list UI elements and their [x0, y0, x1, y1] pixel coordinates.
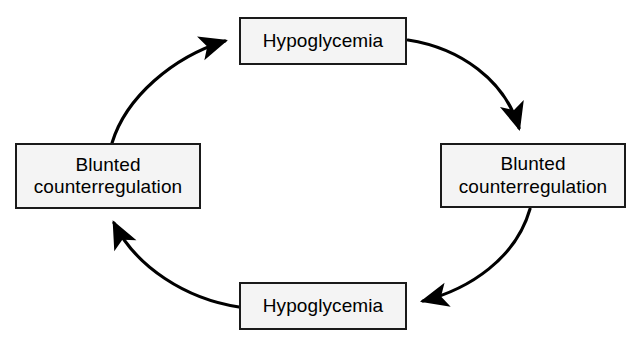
arrow-right-to-bottom: [423, 209, 530, 301]
node-label: Hypoglycemia: [259, 295, 388, 317]
arrow-bottom-to-left: [114, 223, 239, 307]
node-label: Hypoglycemia: [259, 30, 388, 52]
node-label: Blunted counterregulation: [30, 154, 187, 199]
node-blunted-counterregulation-right: Blunted counterregulation: [440, 143, 626, 208]
arrow-left-to-top: [112, 41, 225, 143]
node-hypoglycemia-bottom: Hypoglycemia: [239, 282, 407, 330]
node-blunted-counterregulation-left: Blunted counterregulation: [15, 143, 201, 209]
node-hypoglycemia-top: Hypoglycemia: [239, 17, 407, 65]
diagram-canvas: Hypoglycemia Blunted counterregulation H…: [0, 0, 640, 348]
arrow-top-to-right: [408, 40, 519, 128]
node-label: Blunted counterregulation: [455, 153, 612, 198]
